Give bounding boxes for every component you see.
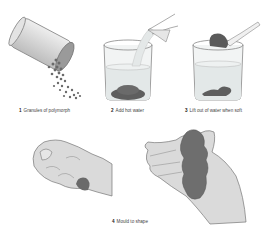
step-4-caption: 4Mould to shape: [112, 219, 148, 224]
step-4-label: Mould to shape: [117, 219, 148, 224]
step-4-number: 4: [112, 219, 115, 224]
hands-moulding-illustration: [0, 0, 264, 231]
